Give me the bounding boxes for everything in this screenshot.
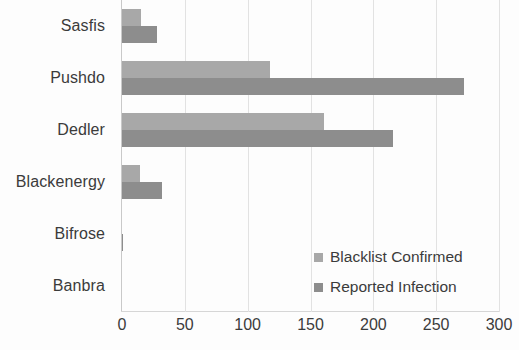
gridline (499, 0, 500, 312)
category-label-row: Dedler (0, 104, 114, 156)
legend-swatch-icon (314, 283, 323, 292)
category-axis-labels: Sasfis Pushdo Dedler Blackenergy Bifrose… (0, 0, 114, 312)
legend-label: Blacklist Confirmed (330, 248, 463, 266)
category-label: Pushdo (50, 69, 105, 87)
value-axis-tick-label: 250 (423, 316, 450, 334)
value-axis-tick-label: 0 (118, 316, 127, 334)
bar-group (122, 0, 499, 52)
legend-swatch-icon (314, 253, 323, 262)
value-axis-tick-label: 100 (234, 316, 261, 334)
category-label-row: Sasfis (0, 0, 114, 52)
bar (122, 165, 140, 182)
value-axis-ticks: 050100150200250300 (122, 316, 499, 342)
category-label-row: Pushdo (0, 52, 114, 104)
bar (122, 130, 393, 147)
value-axis-tick-label: 50 (176, 316, 194, 334)
category-label: Banbra (53, 277, 105, 295)
category-label: Dedler (57, 121, 105, 139)
category-label-row: Bifrose (0, 208, 114, 260)
bar (122, 9, 141, 26)
legend-label: Reported Infection (330, 278, 457, 296)
bar (122, 234, 123, 251)
category-label-row: Banbra (0, 260, 114, 312)
category-label: Blackenergy (16, 173, 105, 191)
bar-group (122, 104, 499, 156)
bar-group (122, 52, 499, 104)
chart-legend: Blacklist Confirmed Reported Infection (314, 248, 463, 296)
legend-item-blacklist-confirmed: Blacklist Confirmed (314, 248, 463, 266)
bar-group (122, 156, 499, 208)
bar (122, 182, 162, 199)
bar (122, 26, 157, 43)
category-label: Sasfis (61, 17, 105, 35)
category-label-row: Blackenergy (0, 156, 114, 208)
bar (122, 61, 270, 78)
bar (122, 113, 324, 130)
value-axis-tick-label: 150 (297, 316, 324, 334)
legend-item-reported-infection: Reported Infection (314, 278, 463, 296)
bar-chart: Sasfis Pushdo Dedler Blackenergy Bifrose… (0, 0, 519, 350)
value-axis-tick-label: 200 (360, 316, 387, 334)
category-label: Bifrose (55, 225, 106, 243)
bar (122, 78, 464, 95)
value-axis-tick-label: 300 (486, 316, 513, 334)
